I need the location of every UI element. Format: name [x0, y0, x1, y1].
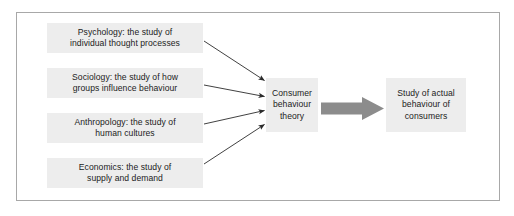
node-theory-line3: theory	[272, 111, 312, 122]
node-study-of-actual-behaviour: Study of actual behaviour of consumers	[386, 78, 466, 132]
node-sociology: Sociology: the study of how groups influ…	[47, 68, 203, 98]
node-outcome-line1: Study of actual	[397, 88, 455, 99]
node-anthropology: Anthropology: the study of human culture…	[47, 113, 203, 143]
node-economics-line1: Economics: the study of	[79, 162, 171, 173]
node-sociology-line1: Sociology: the study of how	[72, 72, 178, 83]
node-anthropology-line2: human cultures	[74, 128, 175, 139]
node-theory-line2: behaviour	[272, 99, 312, 110]
node-outcome-line3: consumers	[397, 111, 455, 122]
node-consumer-behaviour-theory: Consumer behaviour theory	[266, 78, 318, 132]
node-psychology-line1: Psychology: the study of	[70, 27, 180, 38]
node-theory-line1: Consumer	[272, 88, 312, 99]
node-outcome-line2: behaviour of	[397, 99, 455, 110]
node-psychology-line2: individual thought processes	[70, 38, 180, 49]
node-anthropology-line1: Anthropology: the study of	[74, 117, 175, 128]
node-sociology-line2: groups influence behaviour	[72, 83, 178, 94]
node-economics-line2: supply and demand	[79, 173, 171, 184]
node-economics: Economics: the study of supply and deman…	[47, 158, 203, 188]
node-psychology: Psychology: the study of individual thou…	[47, 23, 203, 53]
